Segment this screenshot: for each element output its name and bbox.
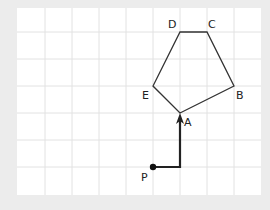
vertex-label-d: D <box>168 18 176 31</box>
vertex-label-p: P <box>141 171 148 184</box>
point-p-dot <box>150 164 156 170</box>
diagram-canvas: ABCDEP <box>0 0 270 210</box>
vertex-label-a: A <box>184 116 192 129</box>
vertex-label-e: E <box>142 89 149 102</box>
vertex-label-b: B <box>236 89 244 102</box>
vertex-label-c: C <box>208 18 216 31</box>
